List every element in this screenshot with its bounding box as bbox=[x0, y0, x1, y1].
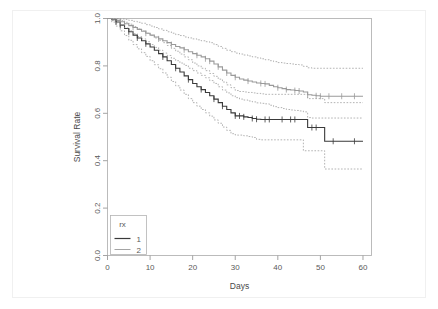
x-tick-label: 10 bbox=[146, 263, 155, 272]
y-tick-label: 1.0 bbox=[93, 12, 102, 24]
y-axis-title: Survival Rate bbox=[72, 111, 82, 162]
legend-label-1: 1 bbox=[137, 235, 142, 244]
censor-marks-layer bbox=[116, 19, 354, 144]
y-tick-label: 0.2 bbox=[93, 202, 102, 214]
x-tick-label: 60 bbox=[359, 263, 368, 272]
x-tick-label: 30 bbox=[231, 263, 240, 272]
y-tick-label: 0.0 bbox=[93, 249, 102, 261]
y-tick-label: 0.4 bbox=[93, 155, 102, 167]
legend-box bbox=[111, 216, 147, 255]
chart-page: rx12 01020304050600.00.20.40.60.81.0Days… bbox=[0, 0, 438, 309]
x-tick-label: 0 bbox=[105, 263, 110, 272]
y-tick-label: 0.8 bbox=[93, 60, 102, 72]
legend-title: rx bbox=[119, 220, 126, 229]
survival-plot: rx12 01020304050600.00.20.40.60.81.0Days… bbox=[0, 0, 438, 309]
x-axis-title: Days bbox=[230, 281, 249, 291]
x-tick-label: 50 bbox=[316, 263, 325, 272]
survival-curve-2 bbox=[108, 19, 363, 97]
legend-label-2: 2 bbox=[137, 246, 142, 255]
chart-legend[interactable]: rx12 bbox=[111, 216, 147, 255]
y-tick-label: 0.6 bbox=[93, 107, 102, 119]
x-tick-label: 20 bbox=[188, 263, 197, 272]
x-tick-label: 40 bbox=[273, 263, 282, 272]
